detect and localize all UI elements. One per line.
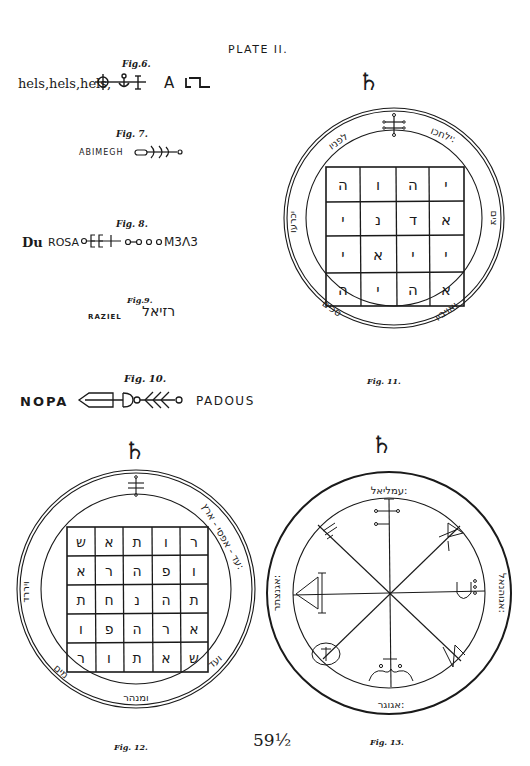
svg-text:ו: ו [107, 650, 111, 666]
fig13-label: Fig. 13. [370, 737, 404, 747]
svg-text:ש: ש [76, 534, 86, 550]
svg-text:פ: פ [162, 563, 171, 579]
fig10-label: Fig. 10. [124, 373, 166, 384]
svg-text:י: י [444, 246, 447, 264]
svg-text:ח: ח [104, 592, 113, 608]
svg-text:א: א [441, 281, 451, 299]
svg-text:ומנהר: ומנהר [123, 692, 149, 703]
arrow-branch-icon [75, 388, 187, 412]
svg-text:ויררד: ויררד [20, 581, 31, 603]
fig12-pentacle: שאתור ארהפו תחנהת ופהרא רותאש עד - אפסי … [15, 468, 257, 710]
fig8-suffix: M3Λ3 [164, 235, 198, 249]
fig13-pentacle: עמליאל: אגנצתר: אגוהנאל: אגוגר: [263, 469, 519, 719]
svg-text:א: א [76, 563, 85, 579]
fig10-left: NOPA [20, 394, 68, 409]
svg-text:י: י [341, 211, 344, 229]
fig8-label: Fig. 8. [116, 219, 148, 229]
svg-text:סכים: סכים [320, 298, 343, 319]
svg-text:י: י [376, 281, 379, 299]
svg-text:ת: ת [132, 650, 141, 666]
svg-text:אגוהנאל:: אגוהנאל: [497, 573, 508, 613]
svg-text:א: א [104, 534, 113, 550]
svg-text:ה: ה [338, 176, 348, 194]
svg-text:ה: ה [132, 563, 141, 579]
svg-text:לפניו: לפניו [326, 131, 349, 152]
fig7-name: ABIMEGH [79, 148, 124, 157]
svg-text:אגוגר:: אגוגר: [378, 699, 405, 710]
fig8-prefix: Du [22, 235, 43, 250]
svg-text:ר: ר [162, 621, 170, 637]
trident-line-icon [133, 144, 185, 160]
plate-title: PLATE II. [228, 43, 288, 56]
svg-text:נ: נ [375, 211, 381, 229]
fig12-label: Fig. 12. [114, 742, 148, 752]
svg-text:צים: צים [489, 211, 500, 226]
svg-text:ה: ה [408, 176, 418, 194]
step-glyph-icon [184, 74, 212, 90]
fig7-label: Fig. 7. [116, 129, 148, 139]
svg-text:ה: ה [408, 281, 418, 299]
svg-text:ר: ר [105, 563, 113, 579]
fig10-right: PADOUS [196, 394, 255, 408]
svg-text:ו: ו [164, 534, 168, 550]
fig6-label: Fig.6. [122, 59, 151, 69]
fig11-pentacle: הוהי ינדא יאיי היהא ילחכו: לפניו יכרעו צ… [282, 106, 507, 331]
svg-text:עמליאל:: עמליאל: [371, 485, 408, 496]
svg-text:א: א [373, 246, 383, 264]
svg-text:יכרעו: יכרעו [287, 211, 298, 233]
svg-text:ש: ש [189, 650, 199, 666]
svg-text:מים: מים [52, 662, 71, 681]
svg-text:ת: ת [189, 592, 198, 608]
svg-text:ו: ו [376, 176, 380, 194]
svg-text:ר: ר [190, 534, 198, 550]
svg-text:י: י [341, 246, 344, 264]
svg-text:אגנצתר:: אגנצתר: [271, 575, 282, 611]
svg-text:א: א [189, 621, 198, 637]
svg-text:י: י [444, 176, 447, 194]
fig8-name: ROSA [48, 236, 79, 249]
saturn-icon: ♄ [358, 68, 380, 96]
svg-text:ר: ר [77, 650, 85, 666]
fig6-letter: A [164, 74, 174, 92]
svg-text:ת: ת [76, 592, 85, 608]
svg-text:נ: נ [134, 592, 140, 608]
svg-text:א: א [441, 211, 451, 229]
fig9-name: RAZIEL [88, 313, 122, 321]
page-number: 59½ [253, 730, 291, 750]
saturn-icon: ♄ [124, 437, 146, 465]
svg-text:ת: ת [132, 534, 141, 550]
svg-text:ואויביו: ואויביו [433, 299, 460, 322]
svg-text:י: י [411, 246, 414, 264]
fig9-hebrew: רזיאל [142, 303, 175, 319]
svg-text:ד: ד [409, 211, 417, 229]
svg-text:ו: ו [192, 563, 196, 579]
saturn-icon: ♄ [371, 431, 393, 459]
svg-text:פ: פ [105, 621, 114, 637]
svg-text:ו: ו [79, 621, 83, 637]
svg-text:ילחכו:: ילחכו: [429, 125, 457, 145]
svg-text:ה: ה [338, 281, 348, 299]
fig11-label: Fig. 11. [367, 376, 401, 386]
svg-text:א: א [161, 650, 170, 666]
svg-text:ה: ה [132, 621, 141, 637]
svg-text:ה: ה [161, 592, 170, 608]
